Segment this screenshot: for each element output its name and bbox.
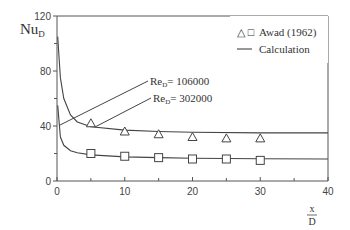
svg-text:x: x [310, 203, 315, 214]
legend-label-calculation: Calculation [259, 43, 310, 55]
svg-text:ReD= 302000: ReD= 302000 [153, 92, 213, 106]
svg-text:ReD= 106000: ReD= 106000 [150, 75, 210, 89]
y-axis-label: NuD [20, 21, 45, 39]
x-tick-label: 20 [187, 186, 199, 197]
square-marker [87, 150, 95, 158]
x-tick-label: 10 [119, 186, 131, 197]
nusselt-chart: 01020304004080120 NuD x D △ □ Awad (1962… [0, 0, 350, 230]
square-marker [155, 154, 163, 162]
legend: △ □ Awad (1962) Calculation [230, 16, 328, 63]
square-marker [121, 152, 129, 160]
triangle-marker [222, 134, 231, 142]
square-marker [189, 155, 197, 163]
svg-text:D: D [308, 216, 315, 227]
x-tick-label: 30 [255, 186, 267, 197]
legend-marker-awad: △ □ [237, 27, 255, 38]
x-tick-label: 0 [54, 186, 60, 197]
square-marker [256, 156, 264, 164]
y-tick-label: 40 [40, 121, 52, 132]
y-tick-label: 80 [40, 66, 52, 77]
x-axis-label: x D [307, 203, 317, 227]
square-marker [222, 155, 230, 163]
x-tick-label: 40 [322, 186, 334, 197]
triangle-marker [120, 127, 129, 135]
triangle-marker [188, 133, 197, 141]
triangle-marker [86, 119, 95, 127]
y-tick-label: 0 [45, 176, 51, 187]
triangle-marker [256, 134, 265, 142]
legend-label-awad: Awad (1962) [259, 26, 317, 39]
annotation-re-302000: ReD= 302000 [95, 92, 213, 127]
